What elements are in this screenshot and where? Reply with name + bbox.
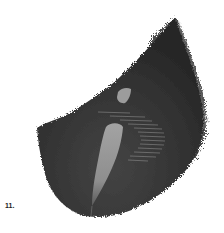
volume-rendering-image: [0, 0, 224, 233]
figure-number-label: 11.: [5, 202, 14, 209]
figure-canvas: 11.: [0, 0, 224, 233]
main-body-shape: [37, 18, 203, 217]
